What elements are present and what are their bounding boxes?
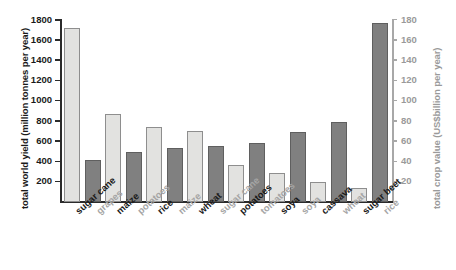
tick-mark — [392, 39, 397, 40]
left-tick-label: 600 — [36, 135, 52, 146]
tick-mark — [55, 100, 60, 102]
tick-mark — [392, 140, 397, 141]
right-tick-label: 140 — [401, 54, 417, 65]
right-axis-line — [392, 19, 394, 203]
tick-mark — [392, 59, 397, 60]
left-tick-label: 1600 — [31, 34, 52, 45]
tick-mark — [55, 39, 60, 41]
right-tick-label: 20 — [401, 175, 412, 186]
left-tick-label: 200 — [36, 175, 52, 186]
right-tick-label: 80 — [401, 115, 412, 126]
tick-mark — [55, 161, 60, 163]
tick-mark — [55, 120, 60, 122]
right-axis-title: total crop value (US$billion per year) — [431, 48, 442, 209]
right-tick-label: 180 — [401, 14, 417, 25]
bar-chart: total world yield (million tonnes per ye… — [0, 0, 456, 270]
tick-mark — [392, 161, 397, 162]
tick-mark — [392, 80, 397, 81]
left-tick-label: 1200 — [31, 74, 52, 85]
tick-mark — [392, 19, 397, 20]
left-axis-title: total world yield (million tonnes per ye… — [19, 28, 30, 209]
right-tick-label: 60 — [401, 135, 412, 146]
left-tick-label: 400 — [36, 155, 52, 166]
left-tick-label: 800 — [36, 115, 52, 126]
tick-mark — [392, 120, 397, 121]
right-tick-label: 120 — [401, 74, 417, 85]
tick-mark — [55, 59, 60, 61]
right-tick-label: 100 — [401, 94, 417, 105]
bar-rice-value[interactable] — [372, 23, 388, 202]
tick-mark — [55, 140, 60, 142]
left-tick-label: 1400 — [31, 54, 52, 65]
left-tick-label: 1000 — [31, 94, 52, 105]
right-tick-label: 160 — [401, 34, 417, 45]
tick-mark — [392, 100, 397, 101]
right-tick-label: 40 — [401, 155, 412, 166]
bar-maize-value[interactable] — [167, 148, 183, 202]
bar-sugar-cane-yield[interactable] — [64, 28, 80, 202]
left-tick-label: 1800 — [31, 14, 52, 25]
tick-mark — [55, 80, 60, 82]
tick-mark — [55, 181, 60, 183]
tick-mark — [55, 19, 60, 21]
